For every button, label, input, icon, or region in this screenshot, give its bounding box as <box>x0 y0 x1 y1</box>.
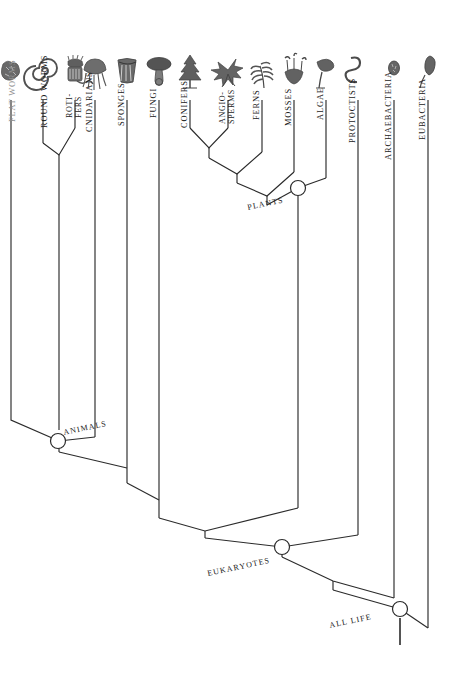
node-circles <box>51 181 408 617</box>
node-label-plants: PLANTS <box>247 195 285 211</box>
node-circle-all-life[interactable] <box>393 602 408 617</box>
organism-illustrations <box>1 53 435 90</box>
tip-label-sponges: SPONGES <box>117 82 126 126</box>
tip-label-protoctists: PROTOCTISTS <box>348 78 357 143</box>
tip-label-rotifers-line1: ROTI- <box>65 93 74 118</box>
tip-label-ferns: FERNS <box>252 89 261 120</box>
join-flatworms <box>11 355 59 441</box>
tree-canvas: FLAT WORMS ROUND WORMS ROTI- FERS CNIDAR… <box>0 0 469 692</box>
join-opisthokonts-plants <box>159 508 298 531</box>
tip-label-fungi: FUNGI <box>149 88 158 118</box>
phylogenetic-tree-diagram: FLAT WORMS ROUND WORMS ROTI- FERS CNIDAR… <box>0 0 469 692</box>
tip-label-flat-worms: FLAT WORMS <box>8 60 17 122</box>
join-seedplants-ferns <box>209 152 262 174</box>
node-label-animals: ANIMALS <box>63 419 108 437</box>
join-vascular-mosses <box>237 172 294 196</box>
tip-label-rotifers-line2: FERS <box>74 96 83 118</box>
join-to-eukaryotes <box>205 538 282 547</box>
alga-icon <box>316 59 334 88</box>
join-animals-sponges <box>59 452 127 468</box>
tip-label-round-worms: ROUND WORMS <box>40 55 49 128</box>
join-eukaryotes-protoctists <box>282 535 358 547</box>
tip-label-angiosperms-line2: SPERMS <box>227 89 236 124</box>
tip-label-rotifers: ROTI- FERS <box>65 93 83 118</box>
tip-label-angiosperms-line1: ANGIO- <box>218 91 227 124</box>
join-conifers-angiosperms <box>190 128 228 148</box>
fungus-icon <box>147 58 171 86</box>
angiosperm-icon <box>211 59 243 87</box>
node-circle-plants[interactable] <box>291 181 306 196</box>
tip-label-mosses: MOSSES <box>284 88 293 126</box>
join-roundworms-rotifers <box>43 128 75 155</box>
join-to-all-life <box>333 590 400 609</box>
tip-label-algae: ALGAE <box>316 87 325 120</box>
sponge-icon <box>118 59 136 84</box>
node-circle-eukaryotes[interactable] <box>275 540 290 555</box>
tip-label-eubacteria: EUBACTERIA <box>418 78 427 140</box>
fern-icon <box>251 63 273 89</box>
tip-branch-lines <box>11 100 428 628</box>
tip-label-cnidarians: CNIDARIANS <box>85 71 94 132</box>
node-label-all-life: ALL LIFE <box>329 612 373 630</box>
moss-icon <box>285 53 306 84</box>
join-animalsponge-fungi <box>127 483 159 500</box>
tip-label-archaebacteria: ARCHAEBACTERIA <box>384 71 393 160</box>
tip-label-angiosperms: ANGIO- SPERMS <box>218 89 236 124</box>
node-label-eukaryotes: EUKARYOTES <box>207 556 271 578</box>
tip-label-conifers: CONIFERS <box>180 80 189 128</box>
node-labels: PLANTS ANIMALS EUKARYOTES ALL LIFE <box>63 195 373 629</box>
